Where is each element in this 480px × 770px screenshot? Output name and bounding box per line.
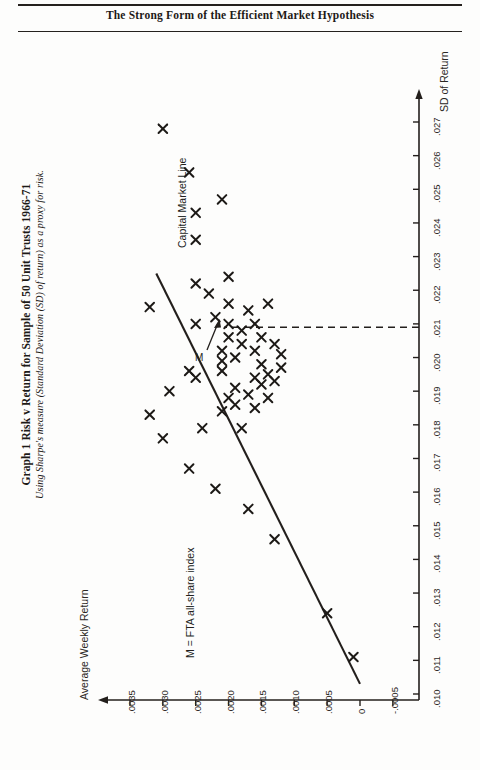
scatter-point (277, 350, 286, 359)
scatter-point (237, 424, 246, 433)
x-axis-title: SD of Return (438, 51, 450, 112)
scatter-point (251, 347, 260, 356)
scatter-chart (0, 0, 480, 770)
sd-tick-label: .021 (431, 319, 442, 338)
scatter-point (191, 320, 200, 329)
scatter-point (231, 353, 240, 362)
scatter-point (224, 394, 233, 403)
scatter-point (270, 535, 279, 544)
scatter-point (159, 434, 168, 443)
market-pointer (207, 319, 221, 350)
return-tick-label: .0015 (257, 690, 268, 714)
scatter-point (244, 306, 253, 315)
scatter-point (205, 289, 214, 298)
y-axis-title: Average Weekly Return (78, 589, 90, 700)
sd-tick-label: .012 (431, 622, 442, 641)
scatter-point (145, 303, 154, 312)
scatter-point (185, 464, 194, 473)
scatter-point (244, 390, 253, 399)
sd-tick-label: .013 (431, 589, 442, 608)
return-tick-label: .0025 (192, 690, 203, 714)
scatter-point (165, 387, 174, 396)
scatter-point (191, 373, 200, 382)
sd-tick-label: .020 (431, 353, 442, 372)
sd-tick-label: .010 (431, 690, 442, 709)
scatter-point (191, 209, 200, 218)
sd-tick-label: .019 (431, 387, 442, 406)
scatter-point (270, 377, 279, 386)
return-tick-label: .0030 (159, 690, 170, 714)
scatter-point (237, 326, 246, 335)
sd-tick-label: .026 (431, 151, 442, 170)
scatter-point (244, 505, 253, 514)
sd-tick-label: .014 (431, 555, 442, 574)
scatter-point (145, 410, 154, 419)
document-page: The Strong Form of the Efficient Market … (0, 0, 480, 770)
sd-tick-label: .017 (431, 454, 442, 473)
scatter-point (211, 313, 220, 322)
chart-svg (0, 0, 480, 770)
scatter-point (224, 272, 233, 281)
return-tick-label: -.0005 (389, 687, 400, 714)
scatter-point (191, 279, 200, 288)
capital-market-line-label: Capital Market Line (176, 158, 188, 248)
return-axis-arrow (98, 696, 108, 703)
return-tick-label: .0035 (126, 690, 137, 714)
return-tick-label: .0020 (225, 690, 236, 714)
scatter-point (218, 347, 227, 356)
scatter-point (251, 404, 260, 413)
chart-ticks (130, 122, 419, 706)
scatter-point (277, 363, 286, 372)
market-index-legend: M = FTA all-share index (184, 548, 196, 658)
sd-tick-label: .018 (431, 420, 442, 439)
sd-tick-label: .027 (431, 118, 442, 137)
scatter-point (218, 357, 227, 366)
sd-tick-label: .011 (431, 657, 442, 675)
scatter-point (264, 299, 273, 308)
sd-tick-label: .023 (431, 252, 442, 271)
scatter-point (257, 333, 266, 342)
scatter-point (270, 340, 279, 349)
scatter-point (237, 340, 246, 349)
sd-tick-label: .022 (431, 286, 442, 305)
scatter-point (198, 424, 207, 433)
market-point-label: M (195, 352, 203, 363)
scatter-point (257, 380, 266, 389)
sd-tick-label: .024 (431, 218, 442, 237)
scatter-point (224, 299, 233, 308)
return-tick-label: .0010 (290, 690, 301, 714)
chart-axes (98, 89, 423, 704)
scatter-point (191, 235, 200, 244)
scatter-point (349, 653, 358, 662)
return-tick-label: .0005 (323, 690, 334, 714)
return-tick-label: 0 (356, 709, 367, 714)
scatter-point (231, 384, 240, 393)
scatter-point (224, 320, 233, 329)
sd-tick-label: .025 (431, 185, 442, 204)
scatter-point (211, 484, 220, 493)
scatter-point (159, 124, 168, 133)
scatter-point (224, 333, 233, 342)
sd-tick-label: .016 (431, 488, 442, 507)
scatter-point (218, 195, 227, 204)
sd-axis-arrow (415, 89, 422, 99)
scatter-point (264, 394, 273, 403)
scatter-point (218, 367, 227, 376)
scatter-point (251, 320, 260, 329)
sd-tick-label: .015 (431, 521, 442, 540)
scatter-point (257, 360, 266, 369)
